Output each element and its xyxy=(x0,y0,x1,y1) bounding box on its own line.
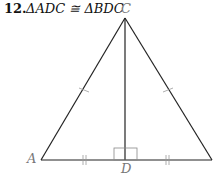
tick-marks xyxy=(79,88,173,165)
segment-bc xyxy=(125,18,212,160)
triangle-diagram xyxy=(0,0,215,174)
figure: 12. ΔADC ≅ ΔBDC C A D xyxy=(0,0,215,174)
segment-ac xyxy=(41,18,125,160)
